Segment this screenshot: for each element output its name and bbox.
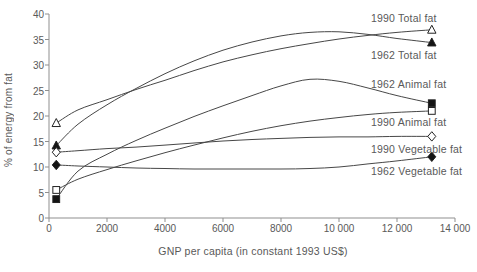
x-tick-label: 0	[46, 223, 52, 234]
y-tick-label: 20	[16, 111, 44, 122]
y-tick-label: 0	[16, 213, 44, 224]
y-axis-title: % of energy from fat	[3, 53, 14, 187]
y-tick-label: 10	[16, 162, 44, 173]
series-line-1962-animal-fat	[56, 79, 432, 199]
series-label-1962-animal-fat: 1962 Animal fat	[371, 78, 446, 90]
fat-energy-gnp-chart: 0200040006000800010 00012 00014 00005101…	[0, 0, 477, 272]
series-label-1990-total-fat: 1990 Total fat	[371, 12, 437, 24]
x-tick-label: 12 000	[382, 223, 413, 234]
marker-open-triangle-1990-total-fat	[428, 25, 436, 33]
series-label-1990-animal-fat: 1990 Animal fat	[371, 116, 446, 128]
marker-filled-square-1962-animal-fat	[53, 196, 60, 203]
x-axis-title: GNP per capita (in constant 1993 US$)	[133, 245, 373, 257]
y-tick-label: 40	[16, 9, 44, 20]
marker-filled-square-1962-animal-fat	[428, 100, 435, 107]
marker-filled-diamond-1962-vegetable-fat	[52, 160, 60, 169]
y-tick-label: 5	[16, 188, 44, 199]
y-tick-label: 25	[16, 86, 44, 97]
x-tick-label: 4000	[154, 223, 176, 234]
marker-open-diamond-1990-vegetable-fat	[428, 132, 436, 141]
x-tick-label: 14 000	[440, 223, 471, 234]
x-tick-label: 6000	[212, 223, 234, 234]
series-label-1962-vegetable-fat: 1962 Vegetable fat	[371, 165, 462, 177]
marker-open-square-1990-animal-fat	[428, 108, 435, 115]
y-tick-label: 15	[16, 137, 44, 148]
marker-open-square-1990-animal-fat	[53, 187, 60, 194]
series-label-1962-total-fat: 1962 Total fat	[371, 49, 437, 61]
x-tick-label: 2000	[96, 223, 118, 234]
series-label-1990-vegetable-fat: 1990 Vegetable fat	[371, 143, 462, 155]
x-tick-label: 10 000	[324, 223, 355, 234]
x-tick-label: 8000	[270, 223, 292, 234]
y-tick-label: 30	[16, 60, 44, 71]
marker-open-triangle-1990-total-fat	[52, 119, 60, 127]
y-tick-label: 35	[16, 35, 44, 46]
